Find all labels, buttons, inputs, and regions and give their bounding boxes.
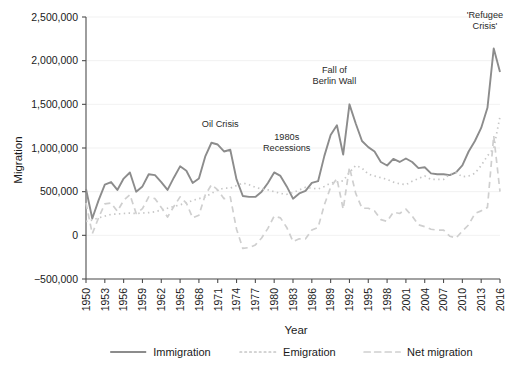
x-tick-label: 1959: [136, 288, 148, 312]
y-tick-label: 2,500,000: [31, 11, 78, 23]
x-tick-label: 1953: [99, 288, 111, 312]
chart-annotation: Fall of: [322, 65, 347, 75]
chart-legend: ImmigrationEmigrationNet migration: [110, 346, 472, 358]
x-tick-label: 1950: [80, 288, 92, 312]
x-tick-label: 1968: [193, 288, 205, 312]
x-tick-label: 1980: [268, 288, 280, 312]
x-tick-label: 2013: [475, 288, 487, 312]
chart-annotation: Recessions: [263, 143, 311, 153]
x-tick-label: 1956: [117, 288, 129, 312]
legend-label-immigration: Immigration: [153, 346, 210, 358]
y-tick-label: 500,000: [40, 185, 78, 197]
legend-label-net-migration: Net migration: [407, 346, 472, 358]
y-tick-label: 1,500,000: [31, 98, 78, 110]
y-axis-title: Migration: [12, 136, 24, 183]
y-tick-label: 1,000,000: [31, 142, 78, 154]
x-tick-label: 2010: [456, 288, 468, 312]
x-tick-label: 1992: [343, 288, 355, 312]
chart-annotation: Crisis': [473, 21, 498, 31]
chart-annotation: Berlin Wall: [313, 76, 357, 86]
migration-line-chart: 2,500,0002,000,0001,500,0001,000,000500,…: [0, 0, 512, 369]
x-axis-title: Year: [284, 324, 307, 336]
legend-label-emigration: Emigration: [283, 346, 336, 358]
y-tick-label: 2,000,000: [31, 54, 78, 66]
chart-annotation: 1980s: [274, 132, 299, 142]
chart-container: 2,500,0002,000,0001,500,0001,000,000500,…: [0, 0, 512, 369]
x-tick-label: 1986: [306, 288, 318, 312]
x-tick-label: 2004: [419, 288, 431, 312]
x-tick-label: 1971: [212, 288, 224, 312]
x-tick-label: 1965: [174, 288, 186, 312]
y-tick-label: −500,000: [34, 273, 78, 285]
x-tick-label: 1974: [230, 288, 242, 312]
x-tick-label: 1962: [155, 288, 167, 312]
y-tick-label: 0: [72, 229, 78, 241]
x-tick-label: 2007: [437, 288, 449, 312]
x-tick-label: 2001: [400, 288, 412, 312]
chart-annotation: 'Refugee: [467, 10, 504, 20]
x-tick-label: 1998: [381, 288, 393, 312]
chart-annotation: Oil Crisis: [202, 119, 239, 129]
x-tick-label: 2016: [494, 288, 506, 312]
x-tick-label: 1989: [324, 288, 336, 312]
x-tick-label: 1983: [287, 288, 299, 312]
x-tick-label: 1977: [249, 288, 261, 312]
x-tick-label: 1995: [362, 288, 374, 312]
